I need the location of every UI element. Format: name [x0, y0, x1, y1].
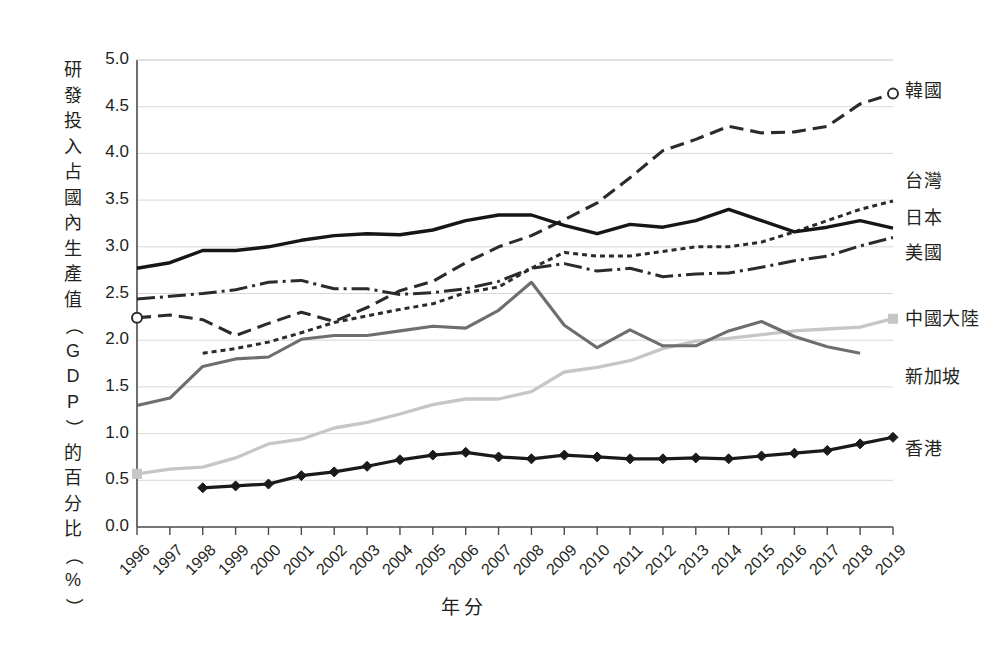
marker-diamond — [625, 454, 635, 464]
x-tick-marks — [137, 527, 893, 535]
series-line-4 — [137, 319, 893, 474]
marker-diamond — [658, 454, 668, 464]
x-axis-title-text: 年分 — [441, 592, 487, 619]
marker-square — [133, 469, 142, 478]
legend-line-stubs — [860, 88, 897, 446]
y-tick-label: 5.0 — [83, 49, 129, 69]
marker-diamond — [231, 481, 241, 491]
rd-gdp-line-chart: 研發投入占國內生產值（GDP）的百分比（%） 0.00.51.01.52.02.… — [0, 0, 1007, 668]
y-tick-label: 0.5 — [83, 469, 129, 489]
legend-item-中國大陸: 中國大陸 — [905, 304, 979, 330]
y-tick-label: 3.0 — [83, 236, 129, 256]
legend-item-韓國: 韓國 — [905, 76, 942, 102]
marker-diamond — [526, 454, 536, 464]
y-tick-label: 4.5 — [83, 96, 129, 116]
y-tick-label: 2.0 — [83, 329, 129, 349]
marker-diamond — [296, 471, 306, 481]
series-line-2 — [137, 209, 893, 268]
gridlines — [137, 60, 893, 480]
y-tick-label: 1.5 — [83, 376, 129, 396]
legend-item-日本: 日本 — [905, 203, 942, 229]
marker-open-circle — [132, 313, 142, 323]
marker-diamond — [329, 467, 339, 477]
x-axis-title: 年分 — [0, 592, 1007, 619]
marker-diamond — [822, 445, 832, 455]
marker-diamond — [362, 461, 372, 471]
legend-item-台灣: 台灣 — [905, 166, 942, 192]
marker-diamond — [559, 450, 569, 460]
marker-diamond — [691, 453, 701, 463]
y-tick-label: 1.0 — [83, 423, 129, 443]
marker-diamond — [724, 454, 734, 464]
marker-diamond — [395, 455, 405, 465]
legend-item-美國: 美國 — [905, 238, 942, 264]
series-lines — [132, 89, 898, 493]
y-tick-label: 2.5 — [83, 283, 129, 303]
marker-diamond — [592, 452, 602, 462]
marker-diamond — [789, 448, 799, 458]
legend-item-新加坡: 新加坡 — [905, 362, 961, 388]
marker-diamond — [461, 447, 471, 457]
marker-diamond — [494, 452, 504, 462]
legend-item-香港: 香港 — [905, 434, 942, 460]
y-tick-label: 4.0 — [83, 142, 129, 162]
y-tick-label: 3.5 — [83, 189, 129, 209]
y-tick-label: 0.0 — [83, 516, 129, 536]
marker-diamond — [757, 451, 767, 461]
marker-diamond — [855, 439, 865, 449]
marker-diamond — [428, 450, 438, 460]
marker-diamond — [198, 483, 208, 493]
